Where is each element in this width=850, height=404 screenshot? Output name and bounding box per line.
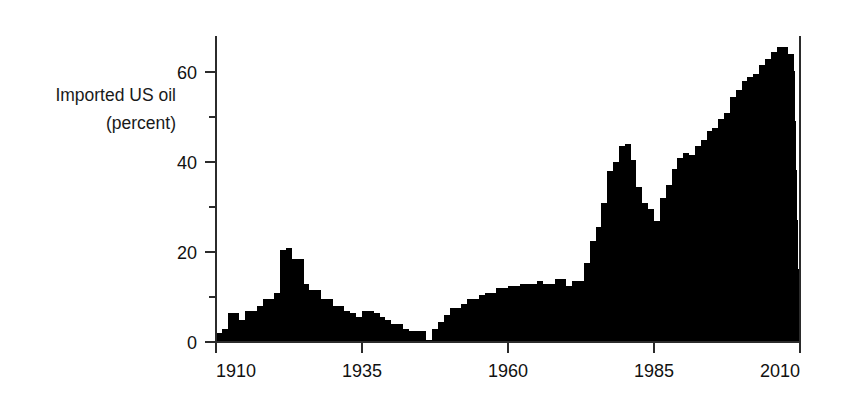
y-axis-ticks: 0204060 [177, 63, 216, 353]
y-tick-label: 60 [177, 63, 197, 83]
chart-figure: Imported US oil (percent) 0204060 191019… [0, 0, 850, 404]
y-tick-label: 20 [177, 243, 197, 263]
x-tick-label: 1960 [488, 361, 528, 381]
x-tick-label: 1935 [342, 361, 382, 381]
y-axis-label-line1: Imported US oil [55, 85, 176, 105]
x-axis-ticks: 19101935196019852010 [216, 342, 800, 381]
bar-silhouette [216, 47, 800, 342]
bar-series-imported-oil [216, 47, 800, 342]
x-tick-label: 2010 [760, 361, 800, 381]
x-tick-label: 1985 [634, 361, 674, 381]
y-axis-label-line2: (percent) [106, 113, 176, 133]
y-tick-label: 0 [187, 333, 197, 353]
y-tick-label: 40 [177, 153, 197, 173]
x-tick-label: 1910 [216, 361, 256, 381]
imported-us-oil-bar-chart: Imported US oil (percent) 0204060 191019… [0, 0, 850, 404]
